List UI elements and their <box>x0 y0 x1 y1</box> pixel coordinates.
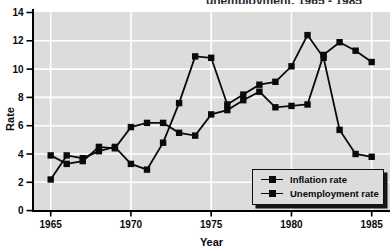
series-inflation-point <box>160 140 166 146</box>
series-inflation-point <box>176 100 182 106</box>
inflation-line-marker-icon <box>261 176 283 184</box>
x-tick-label: 1985 <box>361 219 384 230</box>
series-inflation-point <box>64 152 70 158</box>
y-tick-label: 8 <box>18 92 24 103</box>
series-unemployment-point <box>352 48 358 54</box>
series-unemployment-point <box>240 97 246 103</box>
series-inflation-point <box>224 101 230 107</box>
legend-label-inflation: Inflation rate <box>290 174 347 185</box>
series-unemployment-point <box>304 101 310 107</box>
series-unemployment-point <box>144 120 150 126</box>
y-tick-label: 14 <box>12 7 24 18</box>
series-inflation-point <box>48 176 54 182</box>
series-inflation-point <box>208 55 214 61</box>
series-unemployment-point <box>128 124 134 130</box>
series-inflation-point <box>352 151 358 157</box>
plot-svg: 0246810121419651970197519801985 <box>0 0 392 251</box>
y-axis-title: Rate <box>4 99 18 139</box>
series-unemployment-point <box>224 107 230 113</box>
series-unemployment-point <box>176 130 182 136</box>
y-tick-label: 2 <box>18 177 24 188</box>
series-inflation-point <box>144 166 150 172</box>
x-tick-label: 1970 <box>120 219 143 230</box>
x-tick-label: 1975 <box>200 219 223 230</box>
series-inflation-point <box>128 161 134 167</box>
series-unemployment-point <box>96 144 102 150</box>
series-unemployment-point <box>160 120 166 126</box>
series-unemployment-point <box>80 158 86 164</box>
series-inflation-point <box>256 82 262 88</box>
y-tick-label: 6 <box>18 120 24 131</box>
legend-item-inflation: Inflation rate <box>261 174 377 185</box>
series-inflation-point <box>369 154 375 160</box>
series-unemployment-point <box>112 145 118 151</box>
series-inflation-point <box>288 63 294 69</box>
x-tick-label: 1965 <box>40 219 63 230</box>
legend-box: Inflation rate Unemployment rate <box>252 169 384 205</box>
series-unemployment-point <box>272 104 278 110</box>
series-unemployment-point <box>48 152 54 158</box>
series-unemployment-point <box>208 111 214 117</box>
series-inflation-point <box>304 32 310 38</box>
series-inflation-point <box>240 91 246 97</box>
series-unemployment-point <box>256 89 262 95</box>
y-tick-label: 0 <box>18 205 24 216</box>
series-unemployment-point <box>192 132 198 138</box>
series-inflation-point <box>192 53 198 59</box>
series-unemployment-point <box>336 39 342 45</box>
series-inflation-point <box>336 127 342 133</box>
x-axis-title: Year <box>33 236 390 248</box>
x-tick-label: 1980 <box>280 219 303 230</box>
series-inflation-point <box>272 79 278 85</box>
series-unemployment-point <box>288 103 294 109</box>
chart-figure: unemployment, 1965 - 1985 02468101214196… <box>0 0 392 251</box>
y-tick-label: 10 <box>12 64 24 75</box>
legend-label-unemployment: Unemployment rate <box>290 188 379 199</box>
series-unemployment-point <box>369 59 375 65</box>
legend-item-unemployment: Unemployment rate <box>261 188 377 199</box>
y-tick-label: 12 <box>12 35 24 46</box>
y-tick-label: 4 <box>18 149 24 160</box>
series-unemployment-point <box>64 161 70 167</box>
unemployment-line-marker-icon <box>261 190 283 198</box>
series-unemployment-point <box>320 52 326 58</box>
